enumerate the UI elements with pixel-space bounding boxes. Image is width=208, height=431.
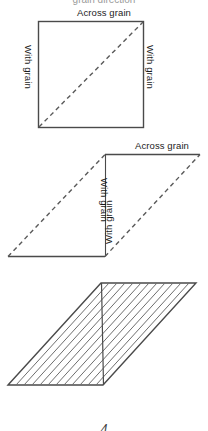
square-diagonal (39, 22, 143, 127)
parallelogram-top-label: Across grain (118, 140, 206, 151)
page-number: 4 (0, 422, 208, 431)
clipped-heading: grain direction (0, 0, 208, 5)
square-right-label: With grain (145, 45, 156, 89)
hatch-lines (16, 283, 189, 385)
parallelogram-left-slant (8, 155, 105, 257)
square-top-label: Across grain (0, 7, 208, 18)
hatched-center-divider (102, 283, 104, 385)
parallelogram-right-label: With grain (99, 178, 110, 222)
square-left-label: With grain (23, 45, 34, 89)
hatched-outline (8, 283, 196, 385)
square-outline (39, 22, 144, 128)
parallelogram-right-slant (105, 155, 200, 257)
